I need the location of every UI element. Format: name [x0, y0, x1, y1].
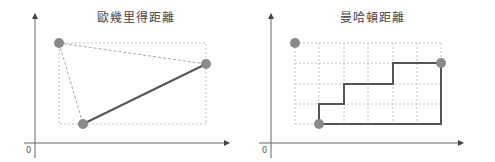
euclidean-panel	[24, 14, 229, 158]
euclidean-line	[83, 64, 206, 124]
dashed-edge	[59, 43, 83, 124]
point	[290, 38, 300, 48]
origin-label: 0	[262, 146, 267, 155]
distance-diagrams	[0, 0, 495, 162]
point	[201, 59, 211, 69]
origin-label: 0	[26, 146, 31, 155]
point	[314, 119, 324, 129]
manhattan-l-path	[319, 63, 441, 124]
euclidean-title: 歐幾里得距離	[97, 8, 175, 25]
manhattan-title: 曼哈頓距離	[340, 8, 405, 25]
bounding-box	[59, 43, 206, 124]
manhattan-panel	[259, 14, 463, 158]
point	[436, 58, 446, 68]
point	[78, 119, 88, 129]
manhattan-staircase-path	[319, 63, 441, 124]
dashed-edge	[59, 43, 206, 64]
point	[54, 38, 64, 48]
